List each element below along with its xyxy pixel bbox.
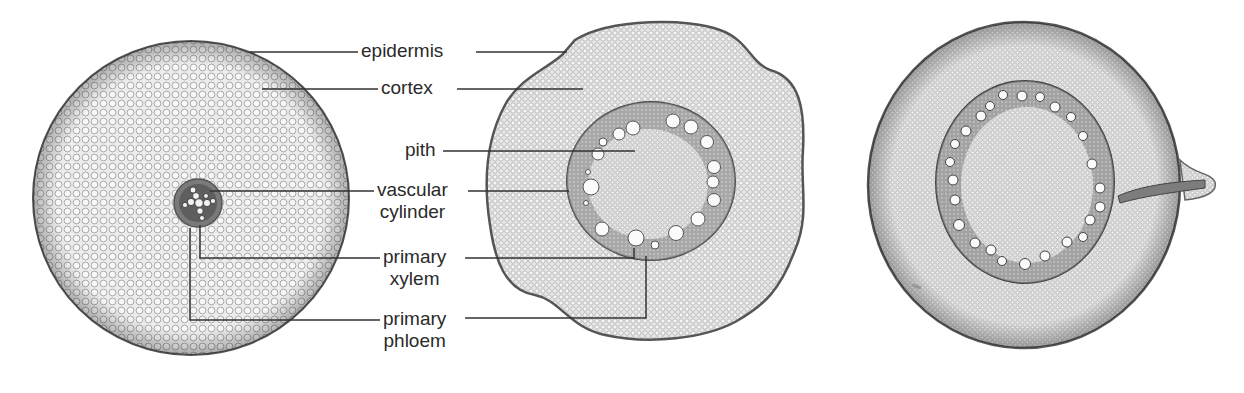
label-primary-xylem-line2: xylem	[383, 268, 446, 290]
label-primary-phloem-line2: phloem	[383, 330, 446, 352]
right-vascular-ring	[936, 81, 1114, 283]
label-cortex: cortex	[378, 77, 436, 99]
middle-vascular-ring	[567, 102, 735, 260]
label-vascular-line1: vascular	[377, 179, 448, 201]
right-root-section	[868, 22, 1215, 348]
cross-sections-illustration	[0, 0, 1244, 393]
label-primary-xylem-line1: primary	[383, 246, 446, 268]
label-primary-phloem-line1: primary	[383, 308, 446, 330]
left-vascular-cylinder	[174, 179, 222, 227]
label-vascular-cylinder: vascular cylinder	[374, 179, 451, 223]
label-vascular-line2: cylinder	[377, 201, 448, 223]
left-root-section	[33, 41, 349, 355]
label-primary-xylem: primary xylem	[380, 246, 449, 290]
label-primary-phloem: primary phloem	[380, 308, 449, 352]
label-epidermis: epidermis	[358, 40, 446, 62]
figure-stage: epidermis cortex pith vascular cylinder …	[0, 0, 1244, 393]
label-pith: pith	[402, 139, 439, 161]
middle-root-section	[487, 22, 804, 340]
